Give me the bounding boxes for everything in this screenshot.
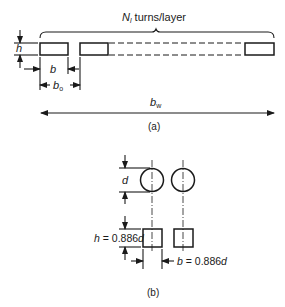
square-height-dimension: h = 0.886d <box>94 216 145 260</box>
square-width-label: b = 0.886d <box>177 255 228 267</box>
conductor-2 <box>80 43 108 55</box>
width-label: b <box>50 63 56 75</box>
square-width-dimension: b = 0.886d <box>131 249 228 269</box>
brace <box>40 29 274 38</box>
turns-per-layer-label: Nl turns/layer <box>122 11 186 24</box>
height-label: h <box>16 42 22 54</box>
caption-b: (b) <box>147 287 159 298</box>
diameter-label: d <box>122 174 129 186</box>
square-height-label: h = 0.886d <box>94 232 145 244</box>
diameter-dimension: d <box>119 155 150 204</box>
winding-layer-diagram: Nl turns/layer h b <box>0 0 285 307</box>
height-dimension: h <box>14 30 38 68</box>
pitch-dimension: bo <box>40 57 80 92</box>
part-a: Nl turns/layer h b <box>14 11 274 132</box>
part-b: d h = 0.886d b = 0.886d (b) <box>94 155 228 298</box>
conductor-last <box>245 43 274 55</box>
winding-width-dimension: bw <box>41 96 274 113</box>
square-wire-1 <box>143 229 162 247</box>
caption-a: (a) <box>148 121 160 132</box>
square-wire-2 <box>174 229 193 247</box>
pitch-label: bo <box>53 79 63 92</box>
winding-width-label: bw <box>150 96 162 109</box>
conductor-1 <box>40 43 68 55</box>
